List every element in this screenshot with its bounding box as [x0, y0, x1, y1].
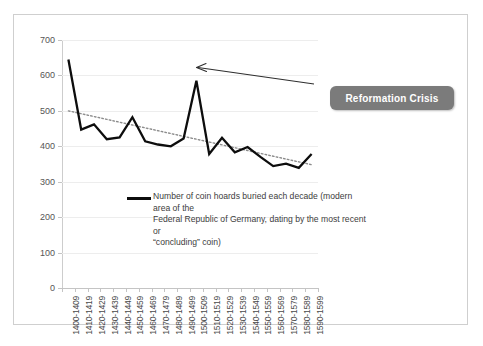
x-tick-mark	[292, 288, 293, 292]
x-axis-label: 1560-1569	[277, 296, 286, 335]
x-axis-label: 1590-1599	[316, 296, 325, 335]
y-axis-label: 700	[40, 36, 55, 45]
y-axis-label: 400	[40, 142, 55, 151]
callout-label: Reformation Crisis	[345, 93, 438, 104]
x-tick-mark	[280, 288, 281, 292]
x-axis-label: 1400-1409	[72, 296, 81, 335]
x-axis-label: 1480-1489	[175, 296, 184, 335]
y-axis-label: 600	[40, 71, 55, 80]
chart-legend: Number of coin hoards buried each decade…	[127, 191, 367, 249]
x-tick-mark	[152, 288, 153, 292]
legend-label-line-1: Number of coin hoards buried each decade…	[153, 191, 367, 214]
x-tick-mark	[126, 288, 127, 292]
x-axis-label: 1510-1519	[213, 296, 222, 335]
x-tick-mark	[100, 288, 101, 292]
x-axis-label: 1430-1439	[111, 296, 120, 335]
x-axis-label: 1490-1499	[188, 296, 197, 335]
x-tick-mark	[190, 288, 191, 292]
legend-label-line-3: “concluding” coin)	[153, 237, 367, 249]
x-tick-mark	[203, 288, 204, 292]
legend-label-line-2: Federal Republic of Germany, dating by t…	[153, 214, 367, 237]
x-axis-label: 1410-1419	[85, 296, 94, 335]
x-axis-label: 1470-1479	[162, 296, 171, 335]
x-axis-label: 1500-1509	[200, 296, 209, 335]
x-tick-mark	[164, 288, 165, 292]
plot-area: 0100200300400500600700 1400-14091410-141…	[62, 40, 318, 288]
scan-artifact	[250, 1, 430, 10]
reformation-crisis-callout: Reformation Crisis	[330, 86, 454, 110]
x-axis-label: 1550-1559	[264, 296, 273, 335]
x-tick-mark	[113, 288, 114, 292]
x-axis-label: 1540-1549	[252, 296, 261, 335]
x-axis-label: 1580-1589	[303, 296, 312, 335]
data-series-layer	[62, 40, 318, 288]
x-tick-mark	[305, 288, 306, 292]
y-axis-label: 200	[40, 213, 55, 222]
x-axis-label: 1440-1449	[124, 296, 133, 335]
coin-hoards-line	[68, 59, 311, 167]
x-tick-mark	[216, 288, 217, 292]
x-tick-mark	[177, 288, 178, 292]
y-axis-label: 300	[40, 178, 55, 187]
x-tick-mark	[228, 288, 229, 292]
x-tick-mark	[88, 288, 89, 292]
x-axis-label: 1420-1429	[98, 296, 107, 335]
x-axis-label: 1570-1579	[290, 296, 299, 335]
x-tick-mark	[241, 288, 242, 292]
y-axis-label: 100	[40, 249, 55, 258]
x-axis-label: 1520-1529	[226, 296, 235, 335]
y-axis-label: 500	[40, 107, 55, 116]
x-tick-mark	[267, 288, 268, 292]
legend-line-swatch	[127, 197, 151, 200]
x-tick-mark	[318, 288, 319, 292]
x-tick-mark	[62, 288, 63, 292]
chart-frame: 0100200300400500600700 1400-14091410-141…	[13, 14, 468, 325]
x-axis-label: 1450-1459	[136, 296, 145, 335]
y-axis-label: 0	[50, 284, 55, 293]
x-tick-mark	[254, 288, 255, 292]
x-tick-mark	[139, 288, 140, 292]
x-tick-mark	[75, 288, 76, 292]
x-axis-label: 1460-1469	[149, 296, 158, 335]
x-axis-label: 1530-1539	[239, 296, 248, 335]
legend-label: Number of coin hoards buried each decade…	[153, 191, 367, 249]
